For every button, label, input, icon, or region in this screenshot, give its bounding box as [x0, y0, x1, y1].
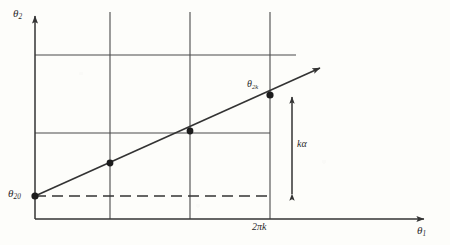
plot-canvas — [0, 0, 450, 245]
data-point-1 — [107, 160, 114, 167]
trajectory-line — [35, 68, 320, 196]
x-tick-label-2pik: 2πk — [252, 222, 266, 232]
final-point-label: θ2k — [247, 79, 258, 90]
y-axis-label: θ2 — [13, 8, 22, 21]
data-point-markers — [31, 91, 273, 199]
initial-point-label: θ20 — [8, 188, 21, 201]
x-axis-label: θ1 — [417, 225, 426, 238]
data-point-initial — [31, 192, 38, 199]
data-point-2 — [187, 128, 194, 135]
gridlines — [35, 12, 296, 219]
height-bracket-label: kα — [297, 139, 307, 149]
axes — [35, 16, 424, 219]
data-point-final — [266, 91, 273, 98]
phase-plot-figure: θ2 θ1 θ20 θ2k 2πk kα — [0, 0, 450, 245]
